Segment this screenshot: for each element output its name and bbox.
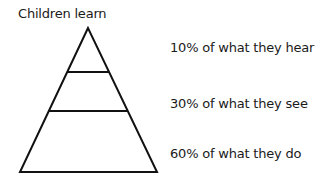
tier-label-hear: 10% of what they hear [170,40,314,55]
tier-label-do: 60% of what they do [170,146,301,161]
tier-label-see: 30% of what they see [170,96,308,111]
pyramid-outline [20,28,157,172]
